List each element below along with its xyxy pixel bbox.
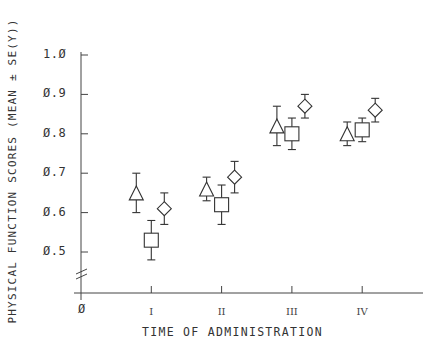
data-point-triangle [129, 173, 143, 212]
x-tick-label: III [286, 306, 298, 317]
series-diamond [157, 94, 382, 224]
data-point-square [285, 118, 299, 150]
square-marker-icon [285, 127, 299, 141]
x-tick-label: II [218, 306, 226, 317]
axes [74, 52, 423, 300]
diamond-marker-icon [368, 103, 382, 117]
y-tick-label: Ø.6 [43, 205, 66, 219]
square-marker-icon [144, 233, 158, 247]
triangle-marker-icon [200, 182, 214, 196]
y-axis-title: PHYSICAL FUNCTION SCORES (MEAN ± SE(Y)) [6, 18, 19, 323]
origin-label: Ø [78, 302, 85, 316]
data-point-square [355, 118, 369, 142]
y-ticks [81, 55, 88, 252]
data-point-triangle [270, 106, 284, 145]
diamond-marker-icon [157, 202, 171, 216]
data-point-triangle [200, 177, 214, 201]
y-tick-label: Ø.8 [43, 126, 66, 140]
y-tick-label: Ø.5 [43, 244, 66, 258]
data-point-diamond [157, 193, 171, 225]
x-tick-label: I [149, 306, 153, 317]
data-points [129, 94, 382, 259]
data-point-diamond [368, 98, 382, 122]
y-axis-title-wrap: PHYSICAL FUNCTION SCORES (MEAN ± SE(Y)) [3, 10, 21, 332]
triangle-marker-icon [129, 186, 143, 200]
y-tick-label: Ø.7 [43, 165, 66, 179]
x-tick-label: IV [357, 306, 368, 317]
data-point-square [215, 185, 229, 224]
x-axis-title: TIME OF ADMINISTRATION [142, 325, 323, 339]
triangle-marker-icon [270, 119, 284, 133]
series-triangle [129, 106, 354, 212]
data-point-diamond [298, 94, 312, 118]
square-marker-icon [355, 123, 369, 137]
series-square [144, 118, 369, 260]
y-tick-label: Ø.9 [43, 86, 66, 100]
diamond-marker-icon [298, 99, 312, 113]
data-point-square [144, 220, 158, 259]
x-ticks [151, 286, 362, 293]
diamond-marker-icon [228, 170, 242, 184]
y-tick-label: 1.Ø [43, 47, 66, 61]
data-point-diamond [228, 161, 242, 193]
triangle-marker-icon [340, 127, 354, 141]
square-marker-icon [215, 198, 229, 212]
data-point-triangle [340, 122, 354, 146]
